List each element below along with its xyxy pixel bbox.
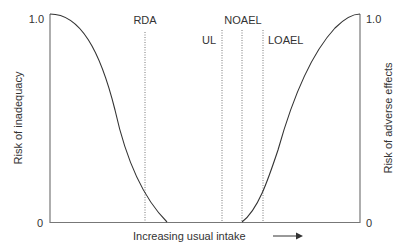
right-tick-bottom: 0 [366, 217, 372, 229]
right-y-axis-label: Risk of adverse effects [382, 62, 394, 174]
loael-label: LOAEL [268, 34, 303, 46]
right-tick-top: 1.0 [366, 13, 381, 25]
left-y-axis-label: Risk of inadequacy [12, 71, 24, 164]
rda-label: RDA [133, 14, 157, 26]
left-tick-bottom: 0 [37, 217, 43, 229]
ul-label: UL [202, 34, 216, 46]
x-axis-arrow [273, 233, 303, 240]
noael-label: NOAEL [224, 14, 261, 26]
left-tick-top: 1.0 [29, 13, 44, 25]
x-axis-label: Increasing usual intake [133, 230, 246, 242]
risk-chart: 1.0 0 1.0 0 RDA UL NOAEL LOAEL Increasin… [0, 0, 406, 250]
inadequacy-curve [50, 14, 167, 222]
